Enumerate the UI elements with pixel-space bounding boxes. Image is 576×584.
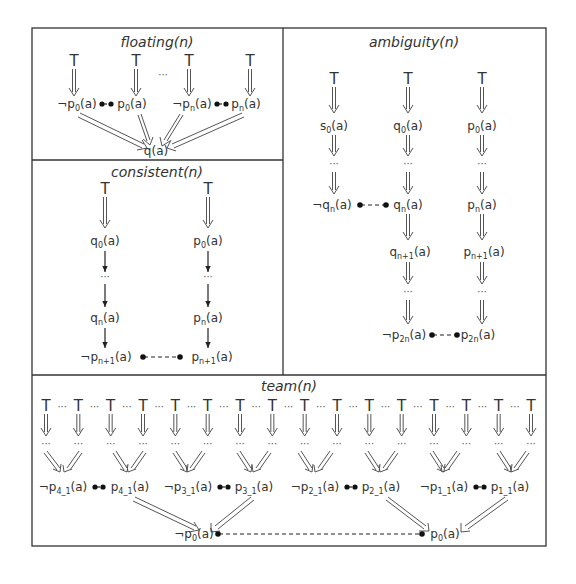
ellipsis: ··· [403,158,413,169]
top-symbol: T [183,52,194,70]
literal-neg-p1-1: ¬p1_1(a) [420,480,469,496]
ellipsis: ··· [203,271,213,282]
top-nodes: T······T······T······T······T······T····… [40,397,536,449]
ellipsis: ··· [138,438,148,449]
ellipsis: ··· [462,438,472,449]
conflict-edge [429,332,460,338]
literal-p3-1: p3_1(a) [235,480,274,496]
ellipsis: ··· [381,401,391,412]
literal-qn: qn(a) [90,311,119,327]
ellipsis: ··· [219,401,229,412]
literal-pn: pn(a) [193,311,222,327]
top-symbol: T [73,397,84,415]
literal-neg-p3-1: ¬p3_1(a) [164,480,213,496]
ellipsis: ··· [203,438,213,449]
ellipsis: ··· [510,401,520,412]
panel-consistent: consistent(n) T T q0(a) p0(a) ··· ··· qn… [80,164,232,366]
literal-pn: pn(a) [467,198,496,214]
literal-p2n: p2n(a) [461,328,496,344]
panel-title: consistent(n) [111,164,203,180]
literal-row: ¬p0(a) p0(a) ¬pn(a) pn(a) [57,97,260,113]
top-symbol: T [328,70,339,88]
top-symbol: T [476,70,487,88]
ellipsis: ··· [445,401,455,412]
ellipsis: ··· [526,438,536,449]
literal-neg-qn: ¬qn(a) [312,198,351,214]
ellipsis: ··· [100,271,110,282]
literal-p4-1: p4_1(a) [111,480,150,496]
panel-floating: floating(n) T T T T ··· ¬p0(a) p0(a) ¬pn… [57,34,260,158]
top-symbol: T [244,52,255,70]
ellipsis: ··· [122,401,132,412]
ellipsis: ··· [300,438,310,449]
literal-pn1: pn+1(a) [191,350,232,366]
diagram-canvas: floating(n) T T T T ··· ¬p0(a) p0(a) ¬pn… [0,0,576,584]
panel-ambiguity: ambiguity(n) T T T [312,34,504,344]
literal-q0: q0(a) [393,119,422,135]
top-symbol: T [364,397,375,415]
sink-neg-p0: ¬p0(a) [174,527,214,543]
literal-p0: p0(a) [193,234,222,250]
literal-neg-p2n: ¬p2n(a) [382,328,427,344]
literal-neg-pn: ¬pn(a) [172,97,211,113]
ellipsis: ··· [187,401,197,412]
strict-arrows [105,251,208,348]
literal-q0: q0(a) [90,234,119,250]
ellipsis: ··· [397,438,407,449]
sink-p0: p0(a) [430,527,459,543]
ellipsis: ··· [235,438,245,449]
ellipsis: ··· [329,158,339,169]
ellipsis: ··· [316,401,326,412]
ellipsis: ··· [154,401,164,412]
top-symbol: T [68,52,79,70]
ellipsis: ··· [41,438,51,449]
literal-neg-pn1: ¬pn+1(a) [80,350,131,366]
top-symbol: T [170,397,181,415]
panel-title: floating(n) [120,34,193,50]
top-symbol: T [202,180,213,198]
ellipsis: ··· [494,438,504,449]
top-symbol: T [525,397,536,415]
conflict-edge [140,354,183,360]
literal-qn: qn(a) [393,198,422,214]
conflict-edge [215,531,425,537]
literal-neg-p2-1: ¬p2_1(a) [291,480,340,496]
ellipsis: ··· [478,401,488,412]
top-symbol: T [202,397,213,415]
top-symbol: T [331,397,342,415]
literal-qn1: qn+1(a) [389,245,430,261]
literal-p2-1: p2_1(a) [362,480,401,496]
ellipsis: ··· [106,438,116,449]
converge-arrows [44,451,529,472]
panel-team: team(n) T······T······T······T······T···… [39,378,537,543]
ellipsis: ··· [251,401,261,412]
literal-p0: p0(a) [467,119,496,135]
ellipsis: ··· [74,438,84,449]
ellipsis: ··· [477,158,487,169]
literal-row: ¬p4_1(a) p4_1(a) ¬p3_1(a) p3_1(a) ¬p2_1(… [39,480,530,496]
top-symbol: T [234,397,245,415]
panel-title: ambiguity(n) [369,34,459,50]
top-symbol: T [40,397,51,415]
ellipsis: ··· [403,286,413,297]
panel-title: team(n) [261,378,317,394]
top-nodes: T T T T ··· [68,52,255,80]
top-symbol: T [267,397,278,415]
top-symbol: T [428,397,439,415]
top-symbol: T [299,397,310,415]
top-symbol: T [396,397,407,415]
ellipsis: ··· [284,401,294,412]
top-symbol: T [402,70,413,88]
ellipsis: ··· [477,286,487,297]
literal-p0: p0(a) [117,97,146,113]
top-symbol: T [493,397,504,415]
double-arrows [100,197,213,228]
literal-s0: s0(a) [320,119,348,135]
ellipsis: ··· [413,401,423,412]
ellipsis: ··· [429,438,439,449]
top-symbol: T [105,397,116,415]
top-symbol: T [137,397,148,415]
conflict-edge [357,202,389,208]
top-symbol: T [130,52,141,70]
ellipsis: ··· [171,438,181,449]
